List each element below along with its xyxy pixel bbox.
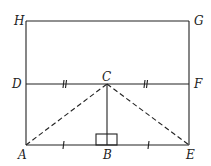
label-B: B bbox=[102, 148, 112, 162]
label-A: A bbox=[17, 148, 27, 162]
single-tick-BE bbox=[148, 141, 149, 149]
label-D: D bbox=[11, 77, 22, 91]
geometry-diagram: H G D C F A B E bbox=[0, 0, 211, 166]
segment-AC-dashed bbox=[26, 84, 107, 145]
diagram-canvas: H G D C F A B E bbox=[0, 0, 211, 166]
label-H: H bbox=[13, 14, 25, 28]
label-G: G bbox=[194, 14, 204, 28]
label-C: C bbox=[102, 70, 111, 84]
label-E: E bbox=[185, 148, 195, 162]
segment-CE-dashed bbox=[107, 84, 189, 145]
single-tick-AB bbox=[63, 141, 64, 149]
label-F: F bbox=[193, 77, 203, 91]
